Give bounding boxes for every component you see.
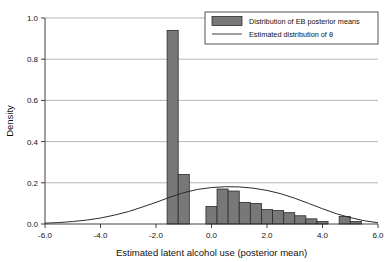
x-tick-label: 0.0 xyxy=(206,231,218,240)
x-tick-label: -2.0 xyxy=(149,231,163,240)
chart-figure: -6.0-4.0-2.00.02.04.06.0 0.00.20.40.60.8… xyxy=(0,0,386,262)
histogram-bar xyxy=(295,216,306,224)
histogram-bar xyxy=(206,206,217,224)
histogram-bar xyxy=(306,219,317,224)
x-tick-label: 6.0 xyxy=(372,231,384,240)
y-tick-label: 0.0 xyxy=(27,220,39,229)
histogram-bar xyxy=(273,211,284,224)
y-tick-label: 1.0 xyxy=(27,14,39,23)
chart-legend: Distribution of EB posterior means Estim… xyxy=(205,12,378,44)
histogram-bar xyxy=(239,202,250,224)
density-histogram-chart: -6.0-4.0-2.00.02.04.06.0 0.00.20.40.60.8… xyxy=(0,0,386,262)
y-tick-label: 0.8 xyxy=(27,55,39,64)
x-axis-ticks: -6.0-4.0-2.00.02.04.06.0 xyxy=(38,224,384,240)
x-axis-label: Estimated latent alcohol use (posterior … xyxy=(116,247,307,258)
y-tick-label: 0.2 xyxy=(27,179,39,188)
y-axis-label: Density xyxy=(4,105,15,137)
histogram-bar xyxy=(178,175,189,224)
x-tick-label: 2.0 xyxy=(261,231,273,240)
histogram-bar xyxy=(284,213,295,224)
histogram-bar xyxy=(250,203,261,224)
x-tick-label: 4.0 xyxy=(317,231,329,240)
legend-swatch-bars xyxy=(212,17,242,26)
x-tick-label: -6.0 xyxy=(38,231,52,240)
histogram-bar xyxy=(217,189,228,224)
histogram-bar xyxy=(228,191,239,224)
y-axis-ticks: 0.00.20.40.60.81.0 xyxy=(27,14,45,229)
legend-item-label-bars: Distribution of EB posterior means xyxy=(249,17,360,26)
x-tick-label: -4.0 xyxy=(94,231,108,240)
histogram-bar xyxy=(261,210,272,224)
y-tick-label: 0.4 xyxy=(27,138,39,147)
legend-item-label-curve: Estimated distribution of θ xyxy=(249,30,333,39)
axes xyxy=(45,18,378,224)
y-tick-label: 0.6 xyxy=(27,96,39,105)
